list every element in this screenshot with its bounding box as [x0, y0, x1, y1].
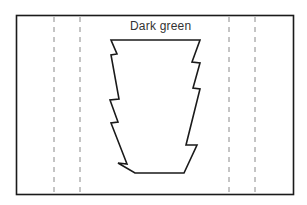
tree-cutout-shape [110, 40, 200, 173]
outer-frame [17, 16, 294, 195]
color-label: Dark green [130, 19, 191, 33]
